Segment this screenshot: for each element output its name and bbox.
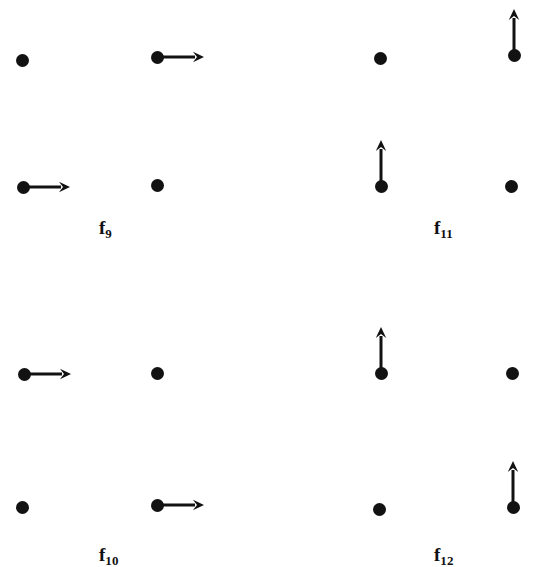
- atom-dot: [506, 367, 519, 380]
- atom-dot: [375, 367, 388, 380]
- mode-panel-f12: f12: [0, 0, 537, 567]
- mode-label-subscript: 12: [440, 553, 453, 567]
- atom-dot: [507, 501, 520, 514]
- mode-label-f12: f12: [434, 545, 454, 567]
- atom-dot: [373, 503, 386, 516]
- figure-canvas: f9f11f10f12: [0, 0, 537, 567]
